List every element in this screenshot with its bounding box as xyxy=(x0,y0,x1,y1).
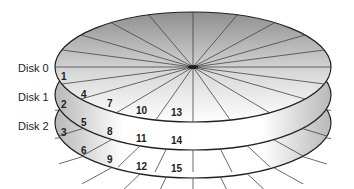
disk-stack-diagram: Disk 0 Disk 1 Disk 2 1 4 7 10 13 2 5 8 1… xyxy=(0,0,354,189)
block-number: 11 xyxy=(136,133,147,144)
block-number: 6 xyxy=(81,145,87,156)
block-number: 15 xyxy=(171,163,183,174)
spindle-hub xyxy=(188,65,198,69)
block-number: 4 xyxy=(81,89,87,100)
disk-label: Disk 0 xyxy=(18,62,49,74)
block-number: 2 xyxy=(61,99,67,110)
block-number: 5 xyxy=(81,117,87,128)
block-number: 8 xyxy=(107,126,113,137)
block-number: 14 xyxy=(171,135,183,146)
disk-label: Disk 1 xyxy=(18,91,49,103)
block-number: 10 xyxy=(136,105,148,116)
disk-label: Disk 2 xyxy=(18,120,49,132)
block-number: 7 xyxy=(107,98,113,109)
disk-0-platter xyxy=(55,12,331,122)
block-number: 13 xyxy=(171,107,183,118)
block-number: 9 xyxy=(107,154,113,165)
block-number: 12 xyxy=(136,161,148,172)
block-number: 1 xyxy=(61,71,67,82)
block-number: 3 xyxy=(61,127,67,138)
